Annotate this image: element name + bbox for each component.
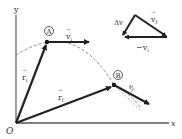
triangle-v-final-arrow-mark: →: [151, 9, 155, 15]
point-a-label: A: [45, 28, 52, 36]
delta-v-label: Δv: [114, 19, 123, 27]
v-initial-label: vi: [65, 32, 73, 42]
x-axis-label: x: [171, 119, 176, 128]
velocity-triangle: Δv vf → −vi: [114, 9, 167, 53]
r-final-arrow-mark: →: [58, 87, 62, 93]
triangle-v-final-label: vf: [150, 15, 159, 25]
y-axis-label: y: [13, 5, 19, 14]
r-initial-vector: [16, 45, 46, 123]
r-final-label: rf: [58, 93, 65, 103]
neg-v-initial-label: −vi: [136, 43, 149, 53]
point-b-label: B: [115, 72, 120, 80]
point-b: B: [112, 71, 123, 88]
r-initial-arrow-mark: →: [22, 67, 26, 73]
tangent-guide-line: [116, 87, 140, 110]
origin-label: O: [6, 126, 14, 136]
triangle-delta-v-vector: [123, 15, 135, 35]
position-vectors: ri → rf →: [16, 45, 111, 123]
r-final-vector: [16, 87, 111, 123]
r-initial-label: ri: [22, 73, 28, 83]
v-initial-arrow-mark: →: [66, 26, 70, 32]
vector-diagram: y x O ri → rf → A vi → B vf: [0, 0, 182, 139]
